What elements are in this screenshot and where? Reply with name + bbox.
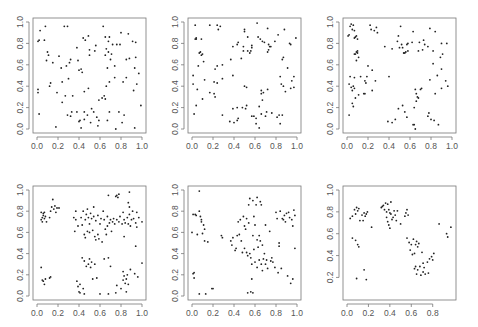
- x-tick-label: 0.8: [115, 308, 127, 318]
- y-tick-label: 0.8: [15, 205, 25, 217]
- data-points: [191, 190, 296, 295]
- x-tick-label: 0.6: [94, 141, 106, 151]
- y-tick-label: 0.4: [325, 249, 335, 261]
- x-axis: 0.00.20.40.60.81.0: [341, 137, 458, 151]
- y-axis: 0.00.20.40.60.81.0: [325, 16, 339, 135]
- x-axis: 0.00.20.40.60.81.0: [31, 137, 148, 151]
- y-tick-label: 0.2: [15, 101, 25, 113]
- x-tick-label: 0.0: [341, 308, 353, 318]
- y-tick-label: 0.8: [325, 37, 335, 49]
- x-tick-label: 0.0: [31, 308, 43, 318]
- y-tick-label: 0.0: [325, 123, 335, 135]
- y-tick-label: 0.4: [325, 80, 335, 92]
- x-tick-label: 0.0: [186, 308, 198, 318]
- x-tick-label: 0.2: [52, 141, 64, 151]
- y-axis: 0.00.20.40.60.81.0: [15, 184, 29, 302]
- x-tick-label: 0.0: [341, 141, 353, 151]
- x-tick-label: 1.0: [446, 141, 458, 151]
- scatter-panel-4: 0.00.20.40.60.81.00.00.20.40.60.81.0: [15, 184, 148, 318]
- x-tick-label: 0.6: [405, 308, 417, 318]
- y-tick-label: 1.0: [170, 184, 180, 196]
- x-tick-label: 1.0: [291, 308, 303, 318]
- y-tick-label: 0.8: [325, 206, 335, 218]
- data-points: [192, 22, 297, 129]
- scatter-panel-6: 0.00.20.40.60.80.20.40.60.81.0: [325, 184, 456, 318]
- y-tick-label: 1.0: [15, 16, 25, 28]
- x-tick-label: 0.2: [207, 141, 219, 151]
- x-tick-label: 0.6: [94, 308, 106, 318]
- x-tick-label: 0.8: [270, 141, 282, 151]
- x-tick-label: 0.4: [228, 141, 240, 151]
- x-tick-label: 0.2: [52, 308, 64, 318]
- y-tick-label: 1.0: [170, 16, 180, 28]
- data-points: [347, 23, 448, 130]
- x-tick-label: 1.0: [136, 308, 148, 318]
- x-tick-label: 0.0: [186, 141, 198, 151]
- y-tick-label: 0.6: [170, 59, 180, 71]
- scatter-panel-2: 0.00.20.40.60.81.00.00.20.40.60.81.0: [170, 16, 303, 151]
- x-tick-label: 0.4: [228, 308, 240, 318]
- x-tick-label: 0.4: [73, 308, 85, 318]
- y-tick-label: 0.2: [15, 269, 25, 281]
- y-tick-label: 0.8: [15, 37, 25, 49]
- x-axis: 0.00.20.40.60.81.0: [31, 304, 148, 318]
- y-tick-label: 0.8: [170, 37, 180, 49]
- scatter-panel-1: 0.00.20.40.60.81.00.00.20.40.60.81.0: [15, 16, 148, 151]
- x-tick-label: 0.6: [249, 308, 261, 318]
- data-points: [37, 25, 142, 130]
- y-tick-label: 1.0: [15, 184, 25, 196]
- x-axis: 0.00.20.40.60.81.0: [186, 304, 303, 318]
- y-tick-label: 1.0: [325, 184, 335, 196]
- x-tick-label: 0.4: [73, 141, 85, 151]
- data-points: [349, 201, 451, 280]
- y-tick-label: 0.4: [15, 80, 25, 92]
- y-tick-label: 0.2: [170, 269, 180, 281]
- y-tick-label: 1.0: [325, 16, 335, 28]
- y-tick-label: 0.4: [170, 247, 180, 259]
- plot-frame: [33, 18, 146, 133]
- y-tick-label: 0.0: [170, 123, 180, 135]
- y-tick-label: 0.6: [170, 226, 180, 238]
- x-tick-label: 0.2: [363, 308, 375, 318]
- y-tick-label: 0.4: [170, 80, 180, 92]
- x-tick-label: 0.8: [115, 141, 127, 151]
- y-axis: 0.00.20.40.60.81.0: [170, 16, 184, 135]
- x-tick-label: 0.4: [384, 308, 396, 318]
- y-tick-label: 0.0: [15, 123, 25, 135]
- y-axis: 0.20.40.60.81.0: [325, 184, 339, 284]
- y-tick-label: 0.2: [325, 271, 335, 283]
- x-tick-label: 0.8: [425, 141, 437, 151]
- x-axis: 0.00.20.40.60.8: [341, 304, 439, 318]
- y-tick-label: 0.2: [170, 101, 180, 113]
- x-tick-label: 0.2: [207, 308, 219, 318]
- x-axis: 0.00.20.40.60.81.0: [186, 137, 303, 151]
- y-tick-label: 0.6: [15, 59, 25, 71]
- scatter-panel-5: 0.00.20.40.60.81.00.00.20.40.60.81.0: [170, 184, 303, 318]
- x-tick-label: 0.8: [270, 308, 282, 318]
- plot-frame: [343, 186, 456, 300]
- y-tick-label: 0.8: [170, 205, 180, 217]
- data-points: [40, 191, 143, 295]
- y-tick-label: 0.2: [325, 101, 335, 113]
- scatter-panel-3: 0.00.20.40.60.81.00.00.20.40.60.81.0: [325, 16, 458, 151]
- y-axis: 0.00.20.40.60.81.0: [170, 184, 184, 302]
- plot-frame: [188, 186, 301, 300]
- y-tick-label: 0.6: [325, 228, 335, 240]
- x-tick-label: 0.6: [404, 141, 416, 151]
- y-tick-label: 0.0: [170, 290, 180, 302]
- x-tick-label: 0.0: [31, 141, 43, 151]
- x-tick-label: 1.0: [291, 141, 303, 151]
- y-tick-label: 0.6: [15, 226, 25, 238]
- x-tick-label: 0.4: [383, 141, 395, 151]
- y-tick-label: 0.6: [325, 59, 335, 71]
- figure-six-scatter-panels: 0.00.20.40.60.81.00.00.20.40.60.81.00.00…: [0, 0, 478, 327]
- x-tick-label: 0.2: [362, 141, 374, 151]
- y-tick-label: 0.4: [15, 247, 25, 259]
- x-tick-label: 0.8: [427, 308, 439, 318]
- plot-frame: [343, 18, 456, 133]
- y-axis: 0.00.20.40.60.81.0: [15, 16, 29, 135]
- x-tick-label: 0.6: [249, 141, 261, 151]
- x-tick-label: 1.0: [136, 141, 148, 151]
- plot-frame: [188, 18, 301, 133]
- y-tick-label: 0.0: [15, 290, 25, 302]
